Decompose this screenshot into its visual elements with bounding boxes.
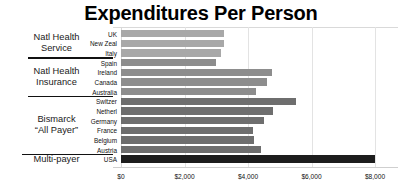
country-label: Netherl xyxy=(96,108,117,115)
bar-row: Belgium xyxy=(0,135,402,145)
x-tick-label: $2,000 xyxy=(174,173,194,180)
bar-ireland[interactable] xyxy=(121,69,272,76)
country-label: Austria xyxy=(97,146,117,153)
country-label: UK xyxy=(108,30,117,37)
bar-switzer[interactable] xyxy=(121,98,296,105)
bar-row: Australia xyxy=(0,87,402,97)
country-label: Belgium xyxy=(94,136,117,143)
country-label: Italy xyxy=(105,50,117,57)
chart-container: Expenditures Per Person Natl HealthServi… xyxy=(0,0,402,193)
country-label: Spain xyxy=(101,59,117,66)
country-label: Canada xyxy=(95,79,117,86)
bar-row: Switzer xyxy=(0,97,402,107)
bar-row: Spain xyxy=(0,58,402,68)
bar-new-zeal[interactable] xyxy=(121,40,224,47)
country-label: Australia xyxy=(92,88,117,95)
bar-row: USA xyxy=(0,154,402,164)
bar-row: UK xyxy=(0,29,402,39)
bar-australia[interactable] xyxy=(121,88,256,95)
bar-row: France xyxy=(0,126,402,136)
bar-spain[interactable] xyxy=(121,59,216,66)
chart-title: Expenditures Per Person xyxy=(0,0,402,25)
bar-france[interactable] xyxy=(121,127,253,134)
bar-usa[interactable] xyxy=(121,155,375,163)
x-tick-label: $0 xyxy=(117,173,124,180)
bar-row: Italy xyxy=(0,48,402,58)
bar-uk[interactable] xyxy=(121,30,224,37)
plot-top-rule xyxy=(113,27,398,28)
x-tick-label: $6,000 xyxy=(301,173,321,180)
x-axis: $0$2,000$4,000$6,000$8,000 xyxy=(0,167,402,193)
country-label: Switzer xyxy=(96,98,117,105)
bar-row: Germany xyxy=(0,116,402,126)
country-label: New Zeal xyxy=(90,40,117,47)
country-label: France xyxy=(97,127,117,134)
country-label: Germany xyxy=(91,117,117,124)
country-label: Ireland xyxy=(97,69,117,76)
x-axis-line xyxy=(113,167,398,168)
bar-row: Canada xyxy=(0,77,402,87)
country-label: USA xyxy=(104,156,117,163)
x-tick-label: $8,000 xyxy=(365,173,385,180)
bar-row: New Zeal xyxy=(0,39,402,49)
bar-row: Netherl xyxy=(0,106,402,116)
bar-austria[interactable] xyxy=(121,146,261,153)
bar-belgium[interactable] xyxy=(121,136,254,143)
bar-italy[interactable] xyxy=(121,49,221,56)
x-tick-label: $4,000 xyxy=(238,173,258,180)
bar-canada[interactable] xyxy=(121,78,267,85)
plot-area: Natl HealthServiceNatl HealthInsuranceBi… xyxy=(0,27,402,167)
bar-row: Ireland xyxy=(0,68,402,78)
bar-germany[interactable] xyxy=(121,117,264,124)
bar-row: Austria xyxy=(0,145,402,155)
bar-netherl[interactable] xyxy=(121,107,273,114)
